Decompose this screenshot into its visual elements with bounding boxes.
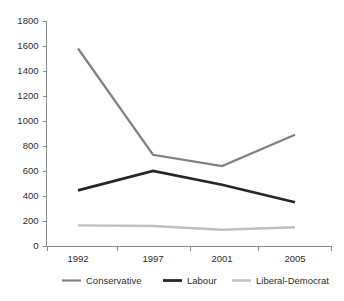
x-axis-group: 1992199720012005	[47, 246, 332, 264]
data-series-group	[78, 49, 295, 230]
chart-legend: ConservativeLabourLiberal-Democrat	[62, 275, 329, 286]
y-tick-label: 600	[23, 165, 39, 176]
series-line-labour	[78, 171, 295, 202]
x-axis-tick-labels: 1992199720012005	[67, 253, 305, 264]
y-tick-label: 1600	[17, 40, 38, 51]
y-axis-tick-labels: 020040060080010001200140016001800	[17, 15, 38, 251]
y-tick-label: 1000	[17, 115, 38, 126]
y-axis-ticks	[43, 21, 47, 246]
x-tick-label: 1992	[67, 253, 88, 264]
series-line-liberal-democrat	[78, 225, 295, 229]
y-tick-label: 1400	[17, 65, 38, 76]
legend-label-conservative: Conservative	[86, 275, 141, 286]
y-tick-label: 0	[33, 240, 38, 251]
y-tick-label: 400	[23, 190, 39, 201]
line-chart: 020040060080010001200140016001800 199219…	[0, 0, 344, 301]
legend-label-labour: Labour	[187, 275, 217, 286]
chart-canvas: 020040060080010001200140016001800 199219…	[0, 0, 344, 301]
y-axis-group: 020040060080010001200140016001800	[17, 15, 46, 251]
legend-label-liberal-democrat: Liberal-Democrat	[256, 275, 329, 286]
x-tick-label: 1997	[142, 253, 163, 264]
x-tick-label: 2001	[211, 253, 232, 264]
series-line-conservative	[78, 49, 295, 167]
x-tick-label: 2005	[284, 253, 305, 264]
y-tick-label: 200	[23, 215, 39, 226]
y-tick-label: 800	[23, 140, 39, 151]
y-tick-label: 1200	[17, 90, 38, 101]
y-tick-label: 1800	[17, 15, 38, 26]
